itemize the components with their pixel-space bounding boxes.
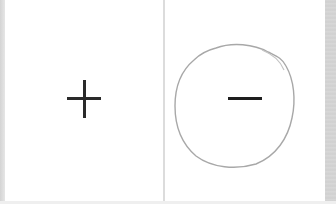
bottom-border-strip [0,201,336,204]
panel-divider [163,0,165,204]
plus-icon [67,80,101,118]
hand-drawn-circle-annotation [172,40,298,170]
minus-icon [228,97,262,100]
right-border-strip [325,0,336,204]
plus-vertical-stroke [83,80,86,118]
